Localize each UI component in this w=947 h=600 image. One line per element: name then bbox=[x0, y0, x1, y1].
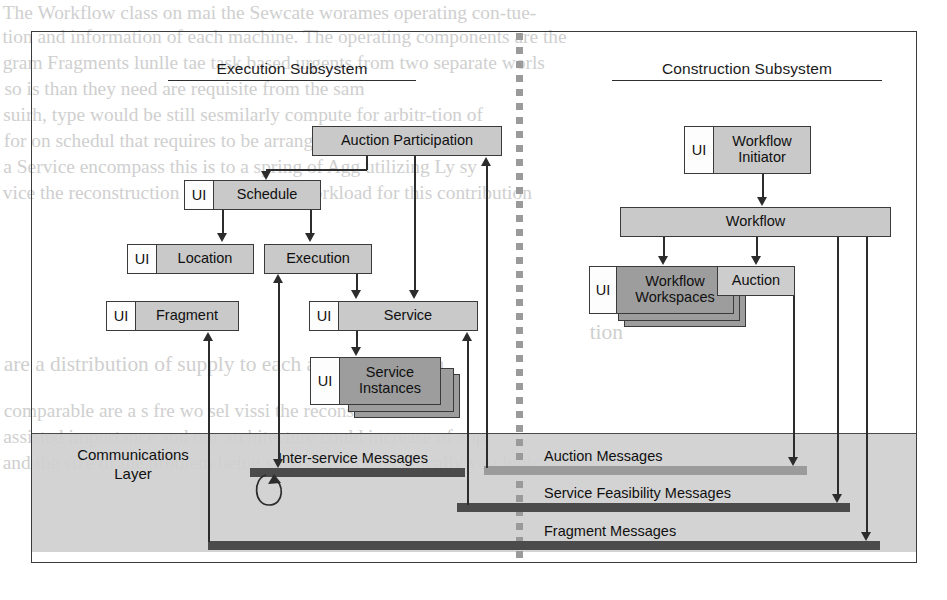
edge-auctionparticipation-service bbox=[414, 156, 416, 291]
arrowhead-serviceinstances-in bbox=[351, 347, 361, 356]
node-label-line1: Workflow bbox=[645, 274, 704, 290]
arrowhead-execution-in bbox=[305, 233, 315, 242]
arrowhead-interservice-down bbox=[273, 459, 283, 468]
divider-dot bbox=[516, 75, 523, 82]
edge-schedule-execution bbox=[310, 210, 312, 234]
node-workflow-initiator[interactable]: Workflow Initiator bbox=[713, 126, 811, 174]
edge-schedule-location bbox=[222, 210, 224, 234]
bus-auction-messages[interactable] bbox=[484, 466, 807, 475]
node-execution[interactable]: Execution bbox=[264, 244, 372, 274]
divider-dot bbox=[516, 103, 523, 110]
ui-tag-service: UI bbox=[309, 301, 339, 331]
ui-tag-service-instances: UI bbox=[310, 357, 340, 405]
edge-servicefeasibility-service bbox=[467, 340, 469, 505]
arrowhead-servicefeasibility-in bbox=[832, 494, 842, 503]
ui-tag-workflow-initiator: UI bbox=[684, 126, 714, 174]
node-schedule[interactable]: Schedule bbox=[213, 180, 321, 210]
edge-execution-interservice bbox=[278, 282, 280, 462]
edge-workflowinitiator-workflow bbox=[762, 174, 764, 198]
divider-dot bbox=[516, 271, 523, 278]
arrowhead-service-up bbox=[462, 332, 472, 341]
edge-workflow-fragmentmessages bbox=[866, 237, 868, 533]
divider-dot bbox=[516, 439, 523, 446]
arrowhead-fragmentmessages-in bbox=[861, 532, 871, 541]
divider-dot bbox=[516, 369, 523, 376]
arrowhead-execution-up bbox=[273, 274, 283, 283]
edge-auctionparticipation-schedule-h bbox=[267, 169, 367, 171]
arrowhead-fragment-up bbox=[203, 332, 213, 341]
divider-dot bbox=[516, 299, 523, 306]
divider-dot bbox=[516, 117, 523, 124]
divider-dot bbox=[516, 327, 523, 334]
arrowhead-service-in bbox=[351, 290, 361, 299]
bus-fragment-messages[interactable] bbox=[208, 541, 880, 550]
edge-auctionparticipation-schedule bbox=[366, 156, 368, 170]
node-label: Fragment bbox=[156, 308, 218, 324]
divider-dot bbox=[516, 89, 523, 96]
divider-dot bbox=[516, 341, 523, 348]
divider-dot bbox=[516, 243, 523, 250]
node-label: Schedule bbox=[237, 187, 297, 203]
ui-tag-fragment: UI bbox=[106, 301, 136, 331]
divider-dot bbox=[516, 313, 523, 320]
divider-dot bbox=[516, 523, 523, 530]
communications-layer-title: Communications Layer bbox=[48, 446, 218, 484]
divider-dot bbox=[516, 33, 523, 40]
node-label: Execution bbox=[286, 251, 350, 267]
bus-label-fragment-messages: Fragment Messages bbox=[544, 523, 676, 539]
edge-service-serviceinstances bbox=[356, 331, 358, 348]
divider-dot bbox=[516, 187, 523, 194]
node-service-instances[interactable]: Service Instances bbox=[339, 357, 441, 405]
divider-dot bbox=[516, 47, 523, 54]
node-service[interactable]: Service bbox=[338, 301, 478, 331]
edge-fragmentmessages-fragment bbox=[208, 340, 210, 542]
self-loop-arrow bbox=[252, 472, 296, 512]
node-label: Service bbox=[384, 308, 432, 324]
bus-label-auction-messages: Auction Messages bbox=[544, 448, 662, 464]
divider-dot bbox=[516, 257, 523, 264]
node-fragment[interactable]: Fragment bbox=[135, 301, 239, 331]
edge-workflow-auction bbox=[756, 237, 758, 257]
divider-dot bbox=[516, 355, 523, 362]
divider-dot bbox=[516, 215, 523, 222]
node-label: Auction bbox=[732, 273, 780, 289]
divider-dot bbox=[516, 285, 523, 292]
node-location[interactable]: Location bbox=[156, 244, 254, 274]
node-label-line1: Service bbox=[366, 365, 414, 381]
ui-tag-schedule: UI bbox=[184, 180, 214, 210]
arrowhead-service-in-2 bbox=[409, 290, 419, 299]
edge-auction-auctionmessages bbox=[793, 296, 795, 458]
edge-workflow-servicefeasibility bbox=[837, 237, 839, 495]
divider-dot bbox=[516, 495, 523, 502]
bus-service-feasibility-messages[interactable] bbox=[457, 503, 850, 512]
arrowhead-workflow-in bbox=[757, 197, 767, 206]
node-label-line2: Initiator bbox=[738, 150, 786, 166]
node-label: Auction Participation bbox=[341, 133, 473, 149]
bus-label-inter-service-messages: Inter-service Messages bbox=[278, 450, 428, 466]
divider-dot bbox=[516, 425, 523, 432]
edge-workflow-workspaces bbox=[663, 237, 665, 257]
arrowhead-auctionmessages-in bbox=[788, 457, 798, 466]
node-auction-participation[interactable]: Auction Participation bbox=[312, 126, 502, 156]
node-label: Location bbox=[178, 251, 233, 267]
divider-dot bbox=[516, 551, 523, 558]
divider-dot bbox=[516, 411, 523, 418]
arrowhead-auctionparticipation-up bbox=[481, 157, 491, 166]
divider-dot bbox=[516, 397, 523, 404]
execution-subsystem-title: Execution Subsystem bbox=[168, 60, 416, 81]
divider-dot bbox=[516, 229, 523, 236]
node-workflow[interactable]: Workflow bbox=[620, 207, 891, 237]
divider-dot bbox=[516, 383, 523, 390]
arrowhead-location-in bbox=[217, 233, 227, 242]
divider-dot bbox=[516, 453, 523, 460]
arrowhead-auction-in bbox=[751, 256, 761, 265]
ui-tag-workflow-workspaces: UI bbox=[589, 266, 617, 314]
divider-dot bbox=[516, 481, 523, 488]
divider-dot bbox=[516, 145, 523, 152]
arrowhead-schedule-in bbox=[261, 171, 271, 180]
edge-execution-service bbox=[356, 274, 358, 291]
node-label-line2: Workspaces bbox=[635, 290, 715, 306]
node-label: Workflow bbox=[726, 214, 785, 230]
bleed-text-line: The Workflow class on mai the Sewcate wo… bbox=[3, 2, 537, 24]
node-auction[interactable]: Auction bbox=[717, 266, 795, 296]
